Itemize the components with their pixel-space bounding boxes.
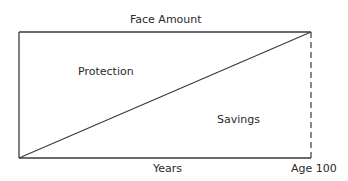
age-100-label: Age 100 bbox=[291, 163, 337, 174]
diagram-canvas bbox=[0, 0, 348, 181]
diagonal-savings-line bbox=[19, 32, 311, 158]
years-label: Years bbox=[153, 163, 182, 174]
savings-label: Savings bbox=[217, 114, 260, 125]
face-amount-label: Face Amount bbox=[130, 14, 202, 25]
protection-label: Protection bbox=[78, 66, 134, 77]
